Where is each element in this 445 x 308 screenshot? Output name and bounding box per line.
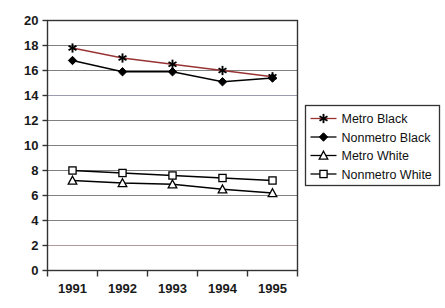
legend-marker-3 [320,170,327,177]
y-axis-label-8: 8 [31,163,38,178]
series-3-point-2 [169,172,176,179]
x-axis-label-1993: 1993 [158,281,187,296]
y-axis-label-6: 6 [31,188,38,203]
y-axis-label-14: 14 [24,88,39,103]
y-axis-label-16: 16 [24,63,38,78]
y-axis-label-12: 12 [24,113,38,128]
x-axis-label-1995: 1995 [258,281,287,296]
y-axis-label-18: 18 [24,38,38,53]
chart-legend: Metro BlackNonmetro BlackMetro WhiteNonm… [306,106,440,186]
legend-label-2: Metro White [342,149,409,163]
series-3-point-1 [119,169,126,176]
legend-label-0: Metro Black [342,112,409,126]
series-3-point-4 [269,177,276,184]
x-axis-label-1994: 1994 [208,281,238,296]
y-axis-label-0: 0 [31,263,38,278]
x-axis-label-1991: 1991 [58,281,87,296]
line-chart: 02468101214161820 19911992199319941995 M… [0,0,445,308]
series-3-point-0 [69,167,76,174]
series-3-point-3 [219,174,226,181]
y-axis-label-4: 4 [31,213,39,228]
y-axis-label-2: 2 [31,238,38,253]
y-axis-label-20: 20 [24,13,38,28]
legend-label-3: Nonmetro White [342,168,432,182]
legend-label-1: Nonmetro Black [342,131,432,145]
chart-container: 02468101214161820 19911992199319941995 M… [0,0,445,308]
y-axis-label-10: 10 [24,138,38,153]
x-axis-label-1992: 1992 [108,281,137,296]
